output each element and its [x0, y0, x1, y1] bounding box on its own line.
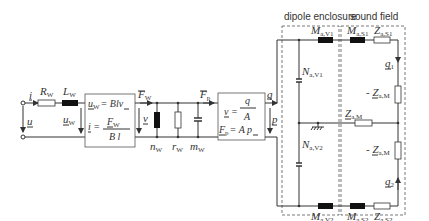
force-fw-label: FW [137, 88, 152, 102]
nw-label: nW [150, 140, 163, 154]
rw-mech-label: rW [172, 140, 183, 154]
nav2-label: Na,V2 [301, 138, 323, 152]
ground-icon [311, 123, 324, 130]
compliance-nw [154, 112, 160, 128]
resistor-rw [38, 100, 55, 106]
current-label: i [29, 89, 32, 101]
damping-rw [175, 112, 181, 128]
transducer2-eq1-den: A [243, 111, 251, 122]
impedance-neg-zam-2 [395, 142, 401, 159]
inductor-lw [62, 100, 78, 106]
force-fp-label: Fp [199, 88, 211, 102]
velocity-label: v [143, 112, 148, 124]
transducer2-eq1-lhs: v = [224, 106, 238, 117]
mw-label: mW [190, 140, 205, 154]
volume-flow-label: q [267, 88, 273, 100]
lw-label: LW [62, 85, 76, 99]
impedance-neg-zam-1 [395, 86, 401, 103]
mass-mav2 [318, 203, 333, 209]
mav2-label: Ma,V2 [310, 210, 334, 221]
pressure-label: p [271, 113, 278, 125]
zas2-label: Za,S2 [374, 210, 393, 221]
transducer2-eq1-num: q [245, 95, 250, 106]
mass-mas2 [350, 203, 365, 209]
impedance-zas2 [374, 203, 390, 209]
transducer1-eq2-den: B l [109, 131, 121, 142]
dipole-enclosure-heading: dipole enclosure [284, 11, 357, 22]
dipole-enclosure-boundary [282, 26, 339, 215]
sound-field-heading: sound field [350, 11, 398, 22]
neg-zam-2-label: - Za,M [366, 143, 390, 157]
rw-label: RW [39, 85, 54, 99]
neg-zam-1-label: - Za,M [366, 86, 390, 100]
voltage-label: u [27, 115, 33, 127]
nav1-label: Na,V1 [301, 65, 323, 79]
mas2-label: Ma,S2 [346, 210, 369, 221]
transducer1-eq2-lhs: i = [88, 121, 100, 132]
equivalent-circuit-diagram: dipole enclosure sound field i u RW LW u… [0, 0, 429, 221]
